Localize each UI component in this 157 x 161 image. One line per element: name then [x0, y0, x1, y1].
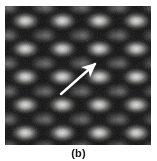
figure-container: (b)	[0, 0, 157, 161]
figure-caption: (b)	[0, 147, 157, 160]
horizontal-fringe-layer	[5, 6, 151, 145]
interference-pattern-panel	[5, 6, 151, 145]
